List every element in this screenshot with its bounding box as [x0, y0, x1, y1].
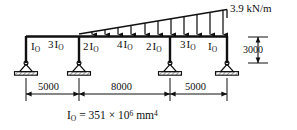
support-2 — [68, 61, 91, 75]
span-2-dimension-label: 8000 — [111, 82, 132, 93]
height-dimension-label: 3000 — [243, 45, 263, 55]
member-label-span-3: 3IO — [180, 39, 196, 51]
member-label-span-1: 3IO — [48, 39, 64, 51]
member-label-span-2-right: 2IO — [146, 41, 162, 53]
support-1 — [15, 61, 38, 75]
member-label-column-left: IO — [30, 41, 40, 53]
distributed-load — [79, 10, 227, 35]
load-slope-line — [79, 10, 227, 35]
member-label-column-right: IO — [207, 41, 217, 53]
span-1-dimension-label: 5000 — [38, 82, 59, 93]
moment-of-inertia-caption: IO = 351 × 106 mm4 — [67, 110, 158, 123]
load-magnitude-label: 3.9 kN/m — [230, 3, 272, 14]
span-3-dimension-label: 5000 — [185, 82, 206, 93]
support-3 — [159, 61, 182, 75]
support-4 — [216, 61, 239, 75]
member-label-span-2-mid: 4IO — [117, 39, 133, 51]
member-label-span-2-left: 2IO — [83, 41, 99, 53]
